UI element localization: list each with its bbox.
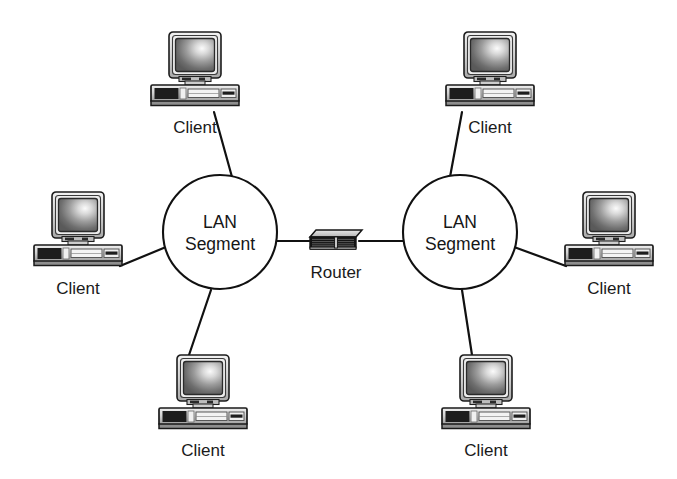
link-client-left xyxy=(120,247,166,266)
link-client-top-right xyxy=(450,112,462,177)
computer-icon[interactable] xyxy=(442,355,530,429)
diagram-canvas: LAN Segment LAN Segment Router Client Cl… xyxy=(0,0,677,479)
lan-segment-left-circle[interactable] xyxy=(163,175,277,289)
lan-segment-right-label-line2: Segment xyxy=(425,234,495,254)
client-top-left[interactable]: Client xyxy=(151,32,239,137)
client-top-left-label: Client xyxy=(173,118,217,137)
client-left-label: Client xyxy=(56,279,100,298)
client-bottom-left[interactable]: Client xyxy=(159,355,247,460)
client-bottom-right-label: Client xyxy=(464,441,508,460)
link-client-bottom-left xyxy=(189,290,211,355)
client-left[interactable]: Client xyxy=(34,192,122,298)
computer-icon[interactable] xyxy=(446,32,534,106)
lan-segment-right[interactable]: LAN Segment xyxy=(403,175,517,289)
computer-icon[interactable] xyxy=(159,355,247,429)
computer-icon[interactable] xyxy=(565,192,653,266)
client-bottom-left-label: Client xyxy=(181,441,225,460)
lan-segment-left-label-line1: LAN xyxy=(203,212,237,232)
client-right-label: Client xyxy=(587,279,631,298)
link-client-right xyxy=(514,247,566,266)
lan-segment-left[interactable]: LAN Segment xyxy=(163,175,277,289)
router-icon[interactable] xyxy=(310,230,362,249)
router-node[interactable]: Router xyxy=(310,230,362,282)
client-bottom-right[interactable]: Client xyxy=(442,355,530,460)
lan-segment-left-label-line2: Segment xyxy=(185,234,255,254)
computer-icon[interactable] xyxy=(151,32,239,106)
computer-icon[interactable] xyxy=(34,192,122,266)
lan-segment-right-circle[interactable] xyxy=(403,175,517,289)
router-label: Router xyxy=(310,263,361,282)
link-client-bottom-right xyxy=(462,290,472,355)
client-right[interactable]: Client xyxy=(565,192,653,298)
client-top-right-label: Client xyxy=(468,118,512,137)
network-diagram: LAN Segment LAN Segment Router Client Cl… xyxy=(0,0,677,479)
lan-segment-right-label-line1: LAN xyxy=(443,212,477,232)
